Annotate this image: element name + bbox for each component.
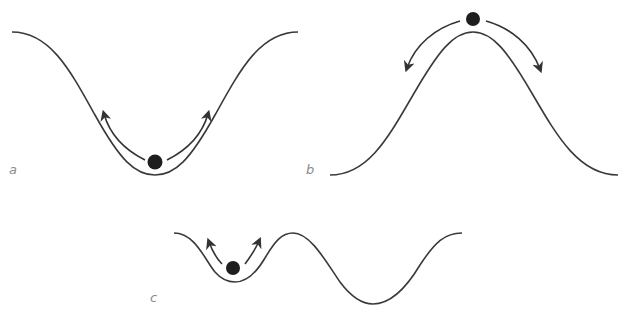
- panel-a-label: a: [9, 162, 17, 177]
- panel-c-label: c: [150, 290, 157, 305]
- panel-c: [174, 233, 462, 304]
- arrow-right-up: [245, 241, 259, 264]
- valley-curve: [12, 32, 298, 175]
- ball: [148, 155, 163, 170]
- arrow-left-up: [104, 114, 145, 160]
- panel-b-label: b: [306, 162, 314, 177]
- arrow-left-up: [209, 242, 222, 264]
- stability-diagram: [0, 0, 630, 320]
- panel-b: [330, 12, 618, 175]
- panel-a: [12, 32, 298, 175]
- hill-curve: [330, 32, 618, 175]
- ball: [466, 12, 480, 26]
- ball: [226, 261, 240, 275]
- double-well-curve: [174, 233, 462, 304]
